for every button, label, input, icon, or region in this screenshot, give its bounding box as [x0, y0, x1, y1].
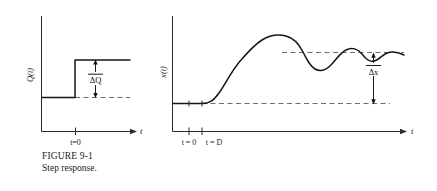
figure-caption-subtitle: Step response.	[42, 162, 222, 174]
right-chart-x-tick-label-tD: t = D	[206, 138, 223, 147]
right-chart-delta-up-arrowhead	[371, 52, 375, 57]
figure-caption-title: FIGURE 9-1	[42, 150, 222, 162]
left-chart-step-curve	[42, 60, 130, 98]
left-chart-y-axis-label-group: Q(t)	[25, 68, 35, 82]
figure-caption: FIGURE 9-1 Step response.	[42, 150, 222, 174]
right-chart-delta-label: Δx	[369, 67, 379, 77]
right-chart-y-axis-label-group: x(t)	[158, 66, 168, 79]
left-chart-x-axis-arrowhead	[130, 129, 137, 135]
right-chart: Δx x(t) t t = 0 t = D	[158, 16, 414, 147]
left-chart-delta-label: ΔQ	[90, 75, 102, 85]
left-chart-x-axis-label: t	[140, 126, 143, 136]
right-chart-x-tick-label-t0: t = 0	[182, 138, 197, 147]
right-chart-y-axis-label: x(t)	[158, 66, 168, 79]
left-chart: ΔQ Q(t) t t=0	[25, 16, 143, 147]
figure-root: ΔQ Q(t) t t=0	[0, 0, 437, 191]
right-chart-x-axis-label: t	[411, 126, 414, 136]
left-chart-delta-dimension: ΔQ	[88, 60, 103, 98]
left-chart-x-tick-label-t0: t=0	[70, 138, 81, 147]
right-chart-x-axis-arrowhead	[400, 129, 407, 135]
left-chart-y-axis-label: Q(t)	[25, 68, 35, 82]
